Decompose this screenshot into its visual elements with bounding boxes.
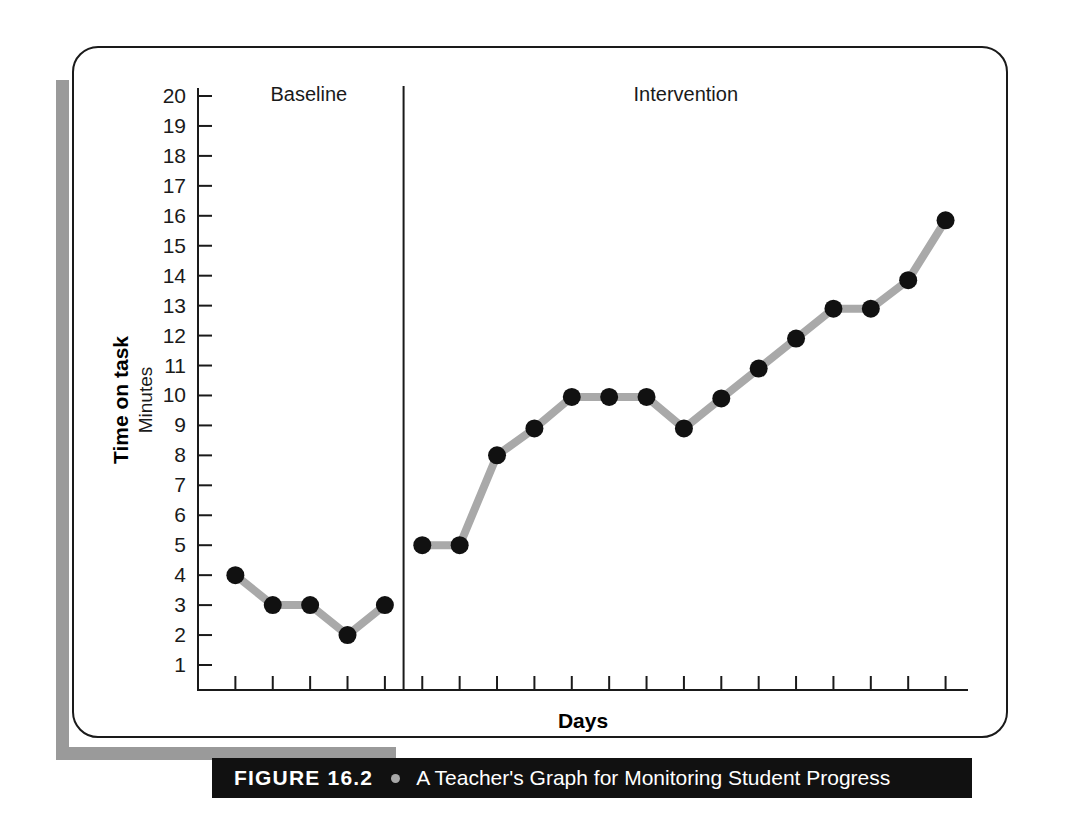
decorative-vertical-rule xyxy=(56,80,69,760)
bullet-dot-icon xyxy=(391,774,400,783)
figure-caption-bar: FIGURE 16.2 A Teacher's Graph for Monito… xyxy=(212,758,972,798)
caption-figure-number: FIGURE 16.2 xyxy=(234,766,373,790)
figure-frame xyxy=(72,46,1008,738)
caption-title: A Teacher's Graph for Monitoring Student… xyxy=(416,766,890,790)
